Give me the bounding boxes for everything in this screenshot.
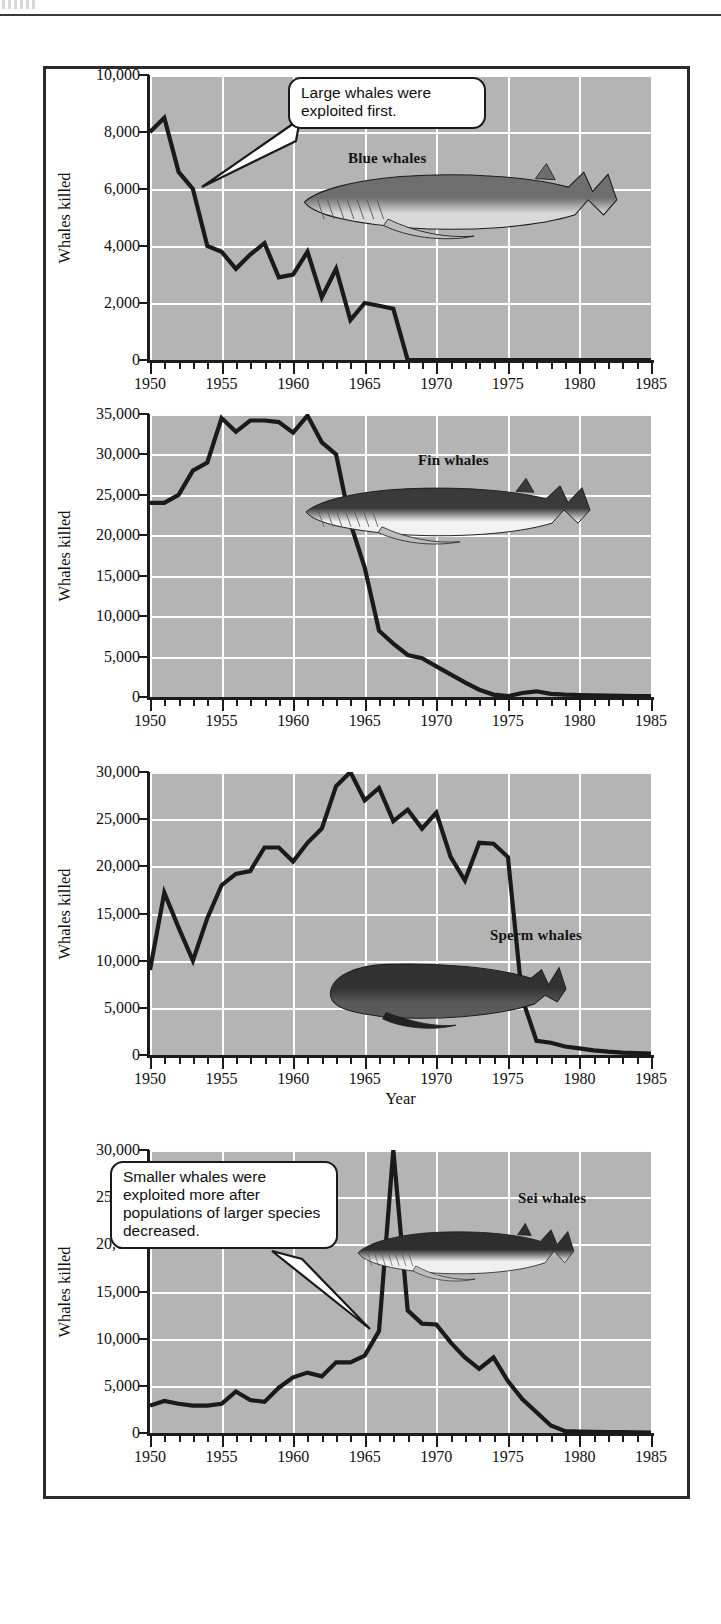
x-tick-mark-minor bbox=[307, 1436, 309, 1442]
y-tick-mark bbox=[139, 534, 149, 536]
x-tick-mark-minor bbox=[594, 700, 596, 706]
x-tick-mark-major bbox=[508, 363, 510, 374]
x-tick-mark-minor bbox=[422, 700, 424, 706]
x-tick-mark-minor bbox=[565, 1058, 567, 1064]
x-tick-mark-minor bbox=[179, 363, 181, 369]
x-tick-mark-minor bbox=[164, 1058, 166, 1064]
x-tick-label: 1970 bbox=[420, 375, 452, 393]
y-tick-label: 15,000 bbox=[96, 1283, 140, 1301]
x-tick-mark-minor bbox=[350, 1436, 352, 1442]
x-tick-mark-minor bbox=[608, 700, 610, 706]
x-tick-label: 1985 bbox=[635, 1448, 667, 1466]
callout-large-whales: Large whales were exploited first. bbox=[288, 77, 486, 129]
x-tick-mark-minor bbox=[551, 363, 553, 369]
y-tick-label: 5,000 bbox=[104, 648, 140, 666]
x-tick-mark-minor bbox=[193, 1436, 195, 1442]
x-tick-mark-minor bbox=[637, 363, 639, 369]
x-tick-mark-minor bbox=[479, 1436, 481, 1442]
y-axis-ticks: 05,00010,00015,00020,00025,00030,00035,0… bbox=[54, 414, 140, 697]
x-tick-label: 1975 bbox=[492, 712, 524, 730]
x-tick-mark-minor bbox=[465, 363, 467, 369]
x-tick-mark-minor bbox=[207, 700, 209, 706]
x-tick-mark-major bbox=[579, 1436, 581, 1447]
x-tick-mark-major bbox=[222, 700, 224, 711]
x-tick-mark-minor bbox=[536, 700, 538, 706]
x-tick-mark-major bbox=[579, 363, 581, 374]
callout-smaller-whales-tail bbox=[266, 1247, 386, 1339]
x-tick-mark-minor bbox=[479, 700, 481, 706]
y-tick-mark bbox=[139, 913, 149, 915]
x-tick-mark-major bbox=[365, 363, 367, 374]
x-tick-mark-minor bbox=[393, 363, 395, 369]
x-tick-mark-minor bbox=[279, 700, 281, 706]
x-tick-mark-minor bbox=[393, 1058, 395, 1064]
x-tick-mark-minor bbox=[465, 1058, 467, 1064]
x-tick-mark-major bbox=[150, 1058, 152, 1069]
y-tick-mark bbox=[139, 771, 149, 773]
x-tick-mark-minor bbox=[522, 1436, 524, 1442]
x-tick-mark-major bbox=[293, 1436, 295, 1447]
x-tick-mark-minor bbox=[565, 1436, 567, 1442]
y-tick-label: 25,000 bbox=[96, 486, 140, 504]
x-tick-mark-major bbox=[508, 700, 510, 711]
y-tick-label: 10,000 bbox=[96, 952, 140, 970]
x-tick-mark-minor bbox=[408, 1436, 410, 1442]
x-tick-mark-minor bbox=[322, 700, 324, 706]
x-tick-mark-minor bbox=[451, 1436, 453, 1442]
x-tick-mark-minor bbox=[494, 700, 496, 706]
x-tick-mark-major bbox=[222, 1058, 224, 1069]
x-tick-mark-minor bbox=[193, 1058, 195, 1064]
x-tick-mark-minor bbox=[608, 1436, 610, 1442]
x-tick-mark-minor bbox=[608, 1058, 610, 1064]
x-tick-mark-major bbox=[365, 700, 367, 711]
x-tick-mark-minor bbox=[193, 700, 195, 706]
x-tick-mark-minor bbox=[207, 363, 209, 369]
x-tick-mark-minor bbox=[565, 363, 567, 369]
x-tick-mark-minor bbox=[265, 363, 267, 369]
y-tick-label: 4,000 bbox=[104, 237, 140, 255]
x-tick-mark-minor bbox=[479, 363, 481, 369]
y-axis-line bbox=[147, 75, 150, 363]
x-tick-mark-minor bbox=[479, 1058, 481, 1064]
chart-panel-fin-whales: Whales killed05,00010,00015,00020,00025,… bbox=[46, 414, 693, 749]
page-top-rule bbox=[0, 14, 721, 16]
y-tick-label: 15,000 bbox=[96, 905, 140, 923]
x-tick-mark-major bbox=[436, 1436, 438, 1447]
y-tick-mark bbox=[139, 188, 149, 190]
x-tick-mark-major bbox=[365, 1058, 367, 1069]
x-tick-mark-minor bbox=[236, 1058, 238, 1064]
y-tick-label: 30,000 bbox=[96, 445, 140, 463]
x-tick-mark-minor bbox=[279, 1058, 281, 1064]
x-tick-mark-major bbox=[579, 1058, 581, 1069]
x-tick-mark-minor bbox=[265, 700, 267, 706]
x-tick-mark-minor bbox=[336, 700, 338, 706]
x-tick-mark-minor bbox=[637, 700, 639, 706]
x-tick-mark-major bbox=[150, 700, 152, 711]
x-tick-mark-minor bbox=[594, 363, 596, 369]
y-tick-label: 2,000 bbox=[104, 294, 140, 312]
y-tick-label: 5,000 bbox=[104, 999, 140, 1017]
x-tick-mark-minor bbox=[622, 700, 624, 706]
x-tick-label: 1985 bbox=[635, 375, 667, 393]
x-tick-label: 1950 bbox=[134, 712, 166, 730]
x-tick-mark-major bbox=[222, 363, 224, 374]
x-tick-mark-minor bbox=[179, 700, 181, 706]
x-tick-mark-minor bbox=[451, 1058, 453, 1064]
y-axis-line bbox=[147, 772, 150, 1058]
x-tick-label: 1955 bbox=[206, 712, 238, 730]
x-tick-mark-minor bbox=[265, 1436, 267, 1442]
x-tick-label: 1960 bbox=[277, 375, 309, 393]
x-tick-mark-minor bbox=[494, 1058, 496, 1064]
y-tick-label: 10,000 bbox=[96, 66, 140, 84]
y-tick-mark bbox=[139, 1291, 149, 1293]
x-tick-mark-minor bbox=[164, 1436, 166, 1442]
x-tick-mark-minor bbox=[179, 1436, 181, 1442]
x-tick-mark-major bbox=[222, 1436, 224, 1447]
species-label: Sei whales bbox=[518, 1190, 586, 1207]
x-tick-label: 1980 bbox=[563, 712, 595, 730]
x-tick-mark-minor bbox=[379, 700, 381, 706]
y-tick-mark bbox=[139, 960, 149, 962]
x-tick-label: 1970 bbox=[420, 712, 452, 730]
y-tick-mark bbox=[139, 453, 149, 455]
x-tick-mark-minor bbox=[637, 1058, 639, 1064]
